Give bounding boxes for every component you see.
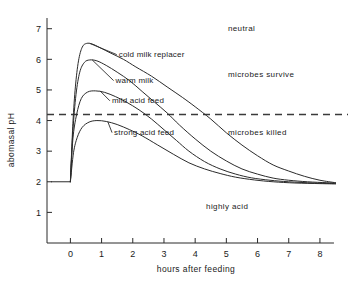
x-axis-tick-label: 4 bbox=[193, 249, 198, 259]
x-axis-tick-label: 5 bbox=[224, 249, 229, 259]
y-axis-tick-label: 3 bbox=[36, 146, 41, 156]
chart-figure: 1234567012345678 cold milk replacerwarm … bbox=[0, 0, 359, 281]
series-label: warm milk bbox=[115, 76, 155, 85]
svg-text:abomasal pH: abomasal pH bbox=[6, 113, 16, 167]
x-axis-tick-label: 8 bbox=[317, 249, 322, 259]
y-axis-tick-label: 1 bbox=[36, 208, 41, 218]
abomasal-ph-line-chart: 1234567012345678 cold milk replacerwarm … bbox=[0, 0, 359, 281]
series-label: cold milk replacer bbox=[119, 50, 185, 59]
y-axis-tick-label: 2 bbox=[36, 177, 41, 187]
y-axis-tick-label: 7 bbox=[36, 24, 41, 34]
y-axis-title: abomasal pH bbox=[6, 113, 16, 167]
x-axis-tick-label: 7 bbox=[286, 249, 291, 259]
x-axis-tick-label: 2 bbox=[130, 249, 135, 259]
x-axis-tick-label: 1 bbox=[99, 249, 104, 259]
zone-annotation: microbes killed bbox=[228, 128, 287, 137]
y-axis-tick-label: 4 bbox=[36, 116, 41, 126]
y-axis-tick-label: 5 bbox=[36, 85, 41, 95]
svg-text:hours after feeding: hours after feeding bbox=[157, 264, 235, 274]
series-label: mild acid feed bbox=[112, 96, 164, 105]
zone-annotation: microbes survive bbox=[228, 70, 295, 79]
x-axis-title: hours after feeding bbox=[157, 264, 235, 274]
y-axis-tick-label: 6 bbox=[36, 55, 41, 65]
x-axis-tick-label: 3 bbox=[161, 249, 166, 259]
series-label: strong acid feed bbox=[114, 128, 174, 137]
zone-annotation: neutral bbox=[228, 24, 255, 33]
x-axis-tick-label: 6 bbox=[255, 249, 260, 259]
plot-background bbox=[0, 0, 359, 281]
zone-annotation: highly acid bbox=[206, 202, 248, 211]
x-axis-tick-label: 0 bbox=[68, 249, 73, 259]
